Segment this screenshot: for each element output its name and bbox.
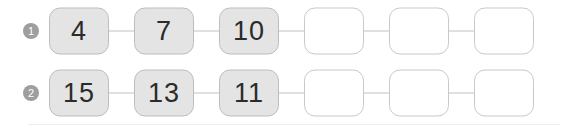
- number-sequence-worksheet: 1 4 7 10 2 15 13 11: [0, 0, 580, 127]
- sequence-cell[interactable]: 10: [219, 8, 279, 55]
- sequence-row: 1 4 7 10: [0, 2, 580, 60]
- connector-line: [449, 31, 474, 32]
- sequence-chain: 4 7 10: [49, 8, 534, 55]
- connector-line: [109, 31, 134, 32]
- sequence-cell-blank[interactable]: [389, 70, 449, 117]
- connector-line: [109, 93, 134, 94]
- sequence-cell-blank[interactable]: [304, 8, 364, 55]
- sequence-cell-blank[interactable]: [474, 8, 534, 55]
- sequence-cell-blank[interactable]: [304, 70, 364, 117]
- sequence-row: 2 15 13 11: [0, 64, 580, 122]
- sequence-cell[interactable]: 4: [49, 8, 109, 55]
- connector-line: [194, 93, 219, 94]
- connector-line: [364, 31, 389, 32]
- numbered-bullet-circle-icon: 2: [23, 85, 39, 101]
- sequence-cell-blank[interactable]: [474, 70, 534, 117]
- sequence-cell[interactable]: 11: [219, 70, 279, 117]
- connector-line: [194, 31, 219, 32]
- connector-line: [364, 93, 389, 94]
- sequence-chain: 15 13 11: [49, 70, 534, 117]
- sequence-cell-blank[interactable]: [389, 8, 449, 55]
- connector-line: [279, 31, 304, 32]
- connector-line: [279, 93, 304, 94]
- sequence-cell[interactable]: 13: [134, 70, 194, 117]
- sequence-cell[interactable]: 15: [49, 70, 109, 117]
- connector-line: [449, 93, 474, 94]
- numbered-bullet-circle-icon: 1: [23, 23, 39, 39]
- bottom-divider: [28, 124, 560, 125]
- sequence-cell[interactable]: 7: [134, 8, 194, 55]
